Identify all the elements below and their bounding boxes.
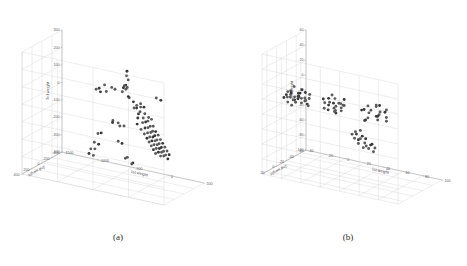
data-point (297, 92, 300, 95)
data-point (332, 102, 335, 105)
data-point (292, 98, 295, 101)
data-point (136, 123, 139, 126)
svg-text:40: 40 (299, 43, 303, 47)
data-point (146, 131, 149, 134)
data-point (121, 90, 124, 93)
data-point (360, 109, 363, 112)
data-point (154, 139, 157, 142)
data-point (327, 97, 330, 100)
data-point (367, 111, 370, 114)
svg-text:-300: -300 (52, 133, 59, 137)
data-point (103, 83, 106, 86)
data-point (290, 104, 293, 107)
data-point (98, 87, 101, 90)
svg-text:500: 500 (206, 182, 212, 186)
svg-text:60: 60 (406, 171, 410, 175)
data-point (297, 95, 300, 98)
svg-text:200: 200 (53, 46, 59, 50)
scatter-plot-b-svg: -100-80-60-40-200204060-60-40-20020-40-2… (234, 0, 467, 215)
data-point (150, 139, 153, 142)
svg-text:-400: -400 (52, 151, 59, 155)
data-point (304, 99, 307, 102)
data-point (149, 131, 152, 134)
data-point (385, 116, 388, 119)
data-point (136, 117, 139, 120)
caption-panel-a: (a) (58, 232, 178, 242)
data-point (89, 147, 92, 150)
data-point (333, 97, 336, 100)
data-point (158, 147, 161, 150)
data-point (285, 93, 288, 96)
data-point (150, 118, 153, 121)
panel-a-3d-scatter: -400-300-200-1000100200300-400-200020040… (0, 0, 233, 215)
svg-text:20: 20 (299, 58, 303, 62)
data-point (372, 150, 375, 153)
data-point (355, 133, 358, 136)
data-point (130, 163, 133, 166)
data-point (323, 101, 326, 104)
svg-text:60: 60 (299, 28, 303, 32)
svg-text:0: 0 (38, 162, 40, 166)
data-point (139, 106, 142, 109)
data-point (359, 129, 362, 132)
data-point (140, 128, 143, 131)
svg-text:-20: -20 (279, 160, 284, 164)
data-point (168, 153, 171, 156)
data-point (300, 101, 303, 104)
data-point (152, 125, 155, 128)
data-point (155, 97, 158, 100)
data-point (93, 141, 96, 144)
data-point (137, 112, 140, 115)
data-point (151, 136, 154, 139)
data-point (364, 137, 367, 140)
svg-text:-200: -200 (52, 115, 59, 119)
data-point (95, 88, 98, 91)
panel-b-3d-scatter: -100-80-60-40-200204060-60-40-20020-40-2… (234, 0, 467, 215)
data-point (328, 101, 331, 104)
data-point (144, 121, 147, 124)
data-point (367, 104, 370, 107)
svg-text:-20: -20 (328, 154, 333, 158)
data-point (366, 116, 369, 119)
data-point (290, 91, 293, 94)
data-point (351, 133, 354, 136)
data-point (379, 110, 382, 113)
data-point (100, 131, 103, 134)
axis-title-x: 1st weight (130, 169, 149, 178)
data-point (293, 95, 296, 98)
svg-text:100: 100 (53, 63, 59, 67)
data-point (139, 102, 142, 105)
data-point (367, 147, 370, 150)
data-point (146, 137, 149, 140)
data-point (144, 127, 147, 130)
data-point (363, 108, 366, 111)
data-point (123, 125, 126, 128)
data-point (340, 109, 343, 112)
data-point (159, 99, 162, 102)
scatter-plot-a-svg: -400-300-200-1000100200300-400-200020040… (0, 0, 233, 215)
data-point (166, 157, 169, 160)
data-point (373, 147, 376, 150)
data-points (88, 70, 171, 166)
data-point (293, 85, 296, 88)
data-point (376, 115, 379, 118)
data-point (135, 107, 138, 110)
data-point (300, 88, 303, 91)
svg-text:-200: -200 (42, 157, 49, 161)
data-point (148, 141, 151, 144)
data-point (152, 148, 155, 151)
svg-text:100: 100 (444, 179, 450, 183)
data-point (327, 104, 330, 107)
data-point (294, 101, 297, 104)
data-point (362, 146, 365, 149)
data-point (147, 126, 150, 129)
data-point (125, 74, 128, 77)
data-point (166, 150, 169, 153)
svg-text:0: 0 (171, 175, 173, 179)
svg-text:-60: -60 (298, 149, 303, 153)
data-point (126, 70, 129, 73)
data-point (308, 97, 311, 100)
data-point (127, 78, 130, 81)
data-point (159, 138, 162, 141)
svg-text:80: 80 (425, 175, 429, 179)
